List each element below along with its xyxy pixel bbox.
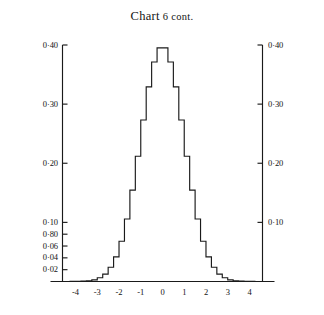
left-axis-label-7: 0·40	[18, 40, 58, 50]
right-axis-label-0: 0·10	[268, 217, 308, 227]
ticks-group	[63, 45, 263, 270]
left-axis-label-5: 0·20	[18, 158, 58, 168]
chart-figure: Chart 6 cont. 0·020·040·060·800·100·200·…	[0, 0, 324, 315]
normal-distribution-step-curve	[65, 48, 261, 282]
left-axis-label-6: 0·30	[18, 99, 58, 109]
left-axis-label-3: 0·80	[18, 229, 58, 239]
left-axis-label-0: 0·02	[18, 264, 58, 274]
left-axis-label-1: 0·04	[18, 252, 58, 262]
axes-group	[51, 45, 275, 282]
left-axis-label-4: 0·10	[18, 217, 58, 227]
right-axis-label-2: 0·30	[268, 99, 308, 109]
x-axis-label-8: 4	[234, 287, 264, 297]
right-axis-label-1: 0·20	[268, 158, 308, 168]
left-axis-label-2: 0·06	[18, 241, 58, 251]
right-axis-label-3: 0·40	[268, 40, 308, 50]
